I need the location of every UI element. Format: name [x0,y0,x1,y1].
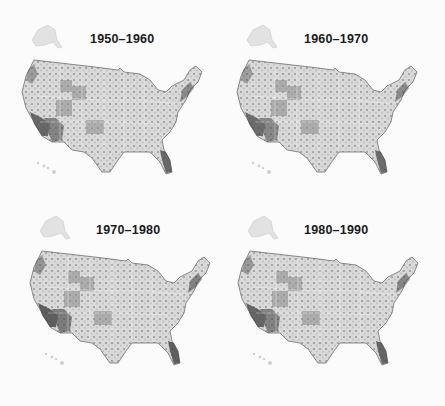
mainland-us-shape [22,60,202,174]
panel-title: 1960–1970 [304,32,368,46]
mainland-us-shape [30,251,210,365]
mainland-us-shape [237,60,417,174]
panel-title: 1970–1980 [96,223,160,237]
map-panel-1: 1950–1960 [0,0,222,203]
map-panel-4: 1980–1990 [222,203,444,406]
us-map [222,0,444,203]
alaska-shape [248,216,278,239]
hawaii-shape [253,353,272,365]
hawaii-shape [37,162,56,174]
hawaii-shape [45,353,64,365]
mainland-us-shape [238,251,418,365]
panel-title: 1980–1990 [304,223,368,237]
alaska-shape [247,25,277,48]
panel-title: 1950–1960 [90,32,154,46]
alaska-shape [32,25,62,48]
map-panel-3: 1970–1980 [0,203,222,406]
hawaii-shape [252,162,271,174]
map-panel-2: 1960–1970 [222,0,444,203]
alaska-shape [40,216,70,239]
us-map [0,0,222,203]
